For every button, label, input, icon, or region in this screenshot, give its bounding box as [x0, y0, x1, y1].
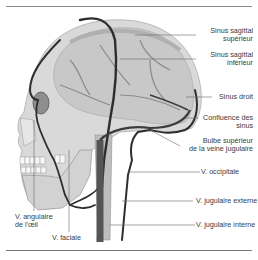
- label-v-jugulaire-interne: V. jugulaire interne: [196, 221, 255, 229]
- label-line: supérieur: [196, 35, 253, 43]
- label-line: de l'œil: [15, 221, 53, 229]
- label-sinus-sagittal-superieur: Sinus sagittal supérieur: [196, 27, 253, 43]
- label-line: de la veine jugulaire: [175, 145, 253, 153]
- label-sinus-sagittal-inferieur: Sinus sagittal inférieur: [196, 51, 253, 67]
- label-v-faciale: V. faciale: [52, 234, 81, 242]
- label-v-jugulaire-externe: V. jugulaire externe: [196, 197, 257, 205]
- label-v-occipitale: V. occipitale: [201, 168, 239, 176]
- label-v-angulaire: V. angulaire de l'œil: [15, 213, 53, 229]
- label-line: inférieur: [196, 59, 253, 67]
- label-confluence-des-sinus: Confluence des sinus: [190, 114, 253, 130]
- label-line: sinus: [190, 122, 253, 130]
- label-sinus-droit: Sinus droit: [196, 93, 253, 101]
- label-bulbe-superieur: Bulbe supérieur de la veine jugulaire: [175, 137, 253, 153]
